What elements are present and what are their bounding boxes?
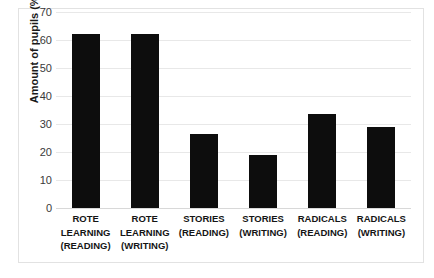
- x-axis-tick-label: RADICALS(WRITING): [352, 212, 411, 239]
- x-axis-tick-label-line: RADICALS: [293, 212, 352, 226]
- gridline: [56, 40, 411, 41]
- bar: [131, 34, 159, 208]
- x-axis-tick-label-line: (WRITING): [352, 226, 411, 240]
- gridline: [56, 12, 411, 13]
- y-axis-tick-label: 10: [22, 175, 52, 186]
- x-axis-tick-label-line: LEARNING: [115, 226, 174, 240]
- x-axis-tick-label: STORIES(WRITING): [234, 212, 293, 239]
- x-axis-tick-label-line: (READING): [293, 226, 352, 240]
- x-axis-tick-label-line: STORIES: [234, 212, 293, 226]
- gridline: [56, 180, 411, 181]
- y-axis-tick-label: 30: [22, 119, 52, 130]
- x-axis-tick-label-line: ROTE: [115, 212, 174, 226]
- bar: [308, 114, 336, 208]
- bar: [72, 34, 100, 208]
- y-axis-tick-label: 50: [22, 63, 52, 74]
- x-axis-tick-label-line: LEARNING: [56, 226, 115, 240]
- x-axis-tick-label-line: (WRITING): [115, 239, 174, 253]
- gridline: [56, 152, 411, 153]
- x-axis-tick-label: ROTELEARNING(WRITING): [115, 212, 174, 253]
- x-axis-tick-label-line: (READING): [56, 239, 115, 253]
- bar-chart: Amount of pupils (%) 010203040506070 ROT…: [0, 0, 434, 278]
- bar: [367, 127, 395, 208]
- y-axis-tick-label: 20: [22, 147, 52, 158]
- y-axis-tick-label: 60: [22, 35, 52, 46]
- chart-plot-area: [56, 12, 411, 208]
- x-axis-tick-label-line: (READING): [174, 226, 233, 240]
- x-axis-tick-label-line: STORIES: [174, 212, 233, 226]
- gridline: [56, 96, 411, 97]
- gridline: [56, 208, 411, 209]
- bar: [190, 134, 218, 208]
- x-axis-tick-label: STORIES(READING): [174, 212, 233, 239]
- y-axis-tick-label: 0: [22, 203, 52, 214]
- x-axis-tick-label-line: RADICALS: [352, 212, 411, 226]
- x-axis-tick-label-line: (WRITING): [234, 226, 293, 240]
- y-axis-tick-labels: 010203040506070: [20, 12, 52, 208]
- x-axis-tick-label-line: ROTE: [56, 212, 115, 226]
- gridline: [56, 124, 411, 125]
- bar: [249, 155, 277, 208]
- x-axis-tick-labels: ROTELEARNING(READING)ROTELEARNING(WRITIN…: [56, 212, 411, 262]
- gridline: [56, 68, 411, 69]
- x-axis-tick-label: ROTELEARNING(READING): [56, 212, 115, 253]
- x-axis-tick-label: RADICALS(READING): [293, 212, 352, 239]
- y-axis-tick-label: 40: [22, 91, 52, 102]
- y-axis-tick-label: 70: [22, 7, 52, 18]
